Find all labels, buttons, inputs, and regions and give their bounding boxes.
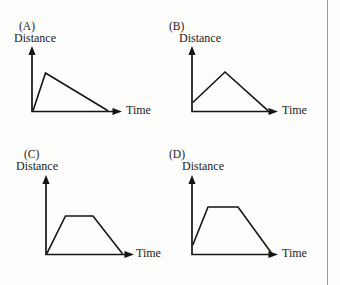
curve-c (47, 216, 123, 254)
x-axis-label-a: Time (126, 104, 151, 117)
chart-panel-b: (B) Distance Time (160, 0, 330, 140)
chart-panel-d: (D) Distance Time (160, 140, 330, 285)
curve-b (193, 72, 268, 111)
curve-d (193, 207, 272, 254)
plot-area-c (0, 140, 170, 285)
x-axis-label-d: Time (282, 247, 307, 260)
y-axis-arrowhead-c (42, 175, 49, 184)
plot-area-d (160, 140, 330, 285)
x-axis-label-b: Time (282, 104, 307, 117)
chart-panel-c: (C) Distance Time (0, 140, 170, 285)
chart-panel-a: (A) Distance Time (0, 0, 170, 140)
x-axis-label-c: Time (136, 247, 161, 260)
y-axis-arrowhead-d (188, 175, 195, 184)
x-axis-arrowhead-c (125, 251, 135, 258)
y-axis-arrowhead-a (28, 46, 35, 55)
plot-area-a (0, 0, 170, 140)
plot-area-b (160, 0, 330, 140)
x-axis-arrowhead-b (269, 108, 279, 115)
y-axis-arrowhead-b (188, 46, 195, 55)
curve-a (33, 73, 108, 111)
x-axis-arrowhead-a (113, 108, 123, 115)
worksheet-page: (A) Distance Time (B) Distance (0, 0, 340, 285)
